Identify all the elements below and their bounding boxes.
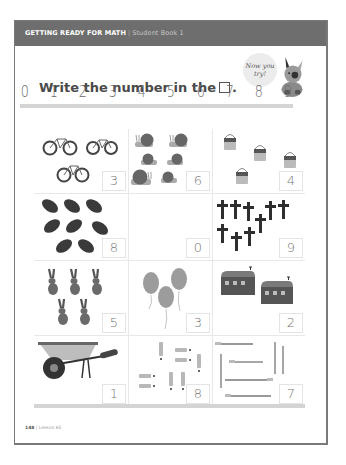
number-line-digit: 5 [167, 83, 175, 101]
cell-crosses: 9 [213, 194, 305, 261]
answer-box[interactable]: 8 [186, 384, 210, 404]
paint-can-icon [223, 133, 237, 151]
footer-separator: | [36, 425, 38, 430]
number-line-digit: 0 [21, 83, 29, 101]
number-line-digit: 7 [226, 83, 234, 101]
page-header: GETTING READY FOR MATH|Student Book 1 [15, 21, 326, 46]
speech-bubble: Now you try! [243, 53, 277, 87]
header-title: GETTING READY FOR MATH [25, 29, 126, 37]
bicycle-icon [86, 137, 118, 155]
snail-icon [135, 133, 155, 147]
header-subtitle: Student Book 1 [132, 29, 183, 37]
snail-icon [167, 153, 185, 165]
paint-can-icon [235, 167, 249, 185]
snail-icon [169, 133, 189, 147]
number-line-digit: 6 [197, 83, 205, 101]
header-text: GETTING READY FOR MATH|Student Book 1 [25, 29, 184, 37]
cell-balloons: 3 [129, 261, 213, 336]
number-line-digit: 3 [109, 83, 117, 101]
number-line: 0 1 2 3 4 5 6 7 8 9 [20, 83, 305, 109]
cell-barns: 2 [213, 261, 305, 336]
bubble-line-2: try! [243, 70, 277, 78]
bicycle-icon [56, 162, 90, 182]
number-line-guide-bar [20, 104, 293, 108]
barn-icon [221, 267, 255, 297]
rabbits-icon [46, 269, 110, 329]
snail-icon [141, 153, 159, 165]
paint-can-icon [253, 144, 267, 162]
paint-can-icon [283, 151, 297, 169]
number-line-digit: 8 [255, 83, 263, 101]
cell-empty: 0 [129, 194, 213, 261]
number-line-digit: 9 [284, 83, 292, 101]
cell-markers: 8 [129, 336, 213, 406]
counting-grid: 3 6 4 [34, 129, 305, 406]
answer-box[interactable]: 2 [279, 313, 303, 333]
cell-paint-cans: 4 [213, 129, 305, 194]
answer-box[interactable]: 8 [102, 238, 126, 258]
cell-paintbrushes: 7 [213, 336, 305, 406]
cell-bicycles: 3 [34, 129, 129, 194]
number-line-digit: 4 [138, 83, 146, 101]
barn-icon [261, 277, 293, 305]
snail-icon [131, 169, 153, 185]
answer-box[interactable]: 3 [102, 171, 126, 191]
bubble-line-1: Now you [243, 62, 277, 70]
cell-footballs: 8 [34, 194, 129, 261]
cell-wheelbarrow: 1 [34, 336, 129, 406]
cell-snails: 6 [129, 129, 213, 194]
bottom-guide-bar [34, 404, 305, 408]
answer-box[interactable]: 4 [279, 171, 303, 191]
balloons-icon [143, 267, 187, 331]
number-line-digit: 2 [79, 83, 87, 101]
answer-box[interactable]: 0 [186, 238, 210, 258]
answer-box[interactable]: 6 [186, 171, 210, 191]
workbook-page: GETTING READY FOR MATH|Student Book 1 No… [14, 20, 328, 445]
header-separator: | [128, 29, 130, 37]
answer-box[interactable]: 5 [102, 313, 126, 333]
cell-rabbits: 5 [34, 261, 129, 336]
answer-box[interactable]: 1 [102, 384, 126, 404]
page-number: 148 [25, 425, 34, 430]
answer-box[interactable]: 7 [279, 384, 303, 404]
answer-box[interactable]: 9 [279, 238, 303, 258]
page-footer: 148 | Lesson 65 [25, 425, 61, 430]
snail-icon [161, 171, 179, 183]
number-line-digit: 1 [50, 83, 58, 101]
bicycle-icon [42, 135, 78, 155]
wheelbarrow-icon [38, 342, 120, 382]
lesson-label: Lesson 65 [39, 425, 62, 430]
answer-box[interactable]: 3 [186, 313, 210, 333]
